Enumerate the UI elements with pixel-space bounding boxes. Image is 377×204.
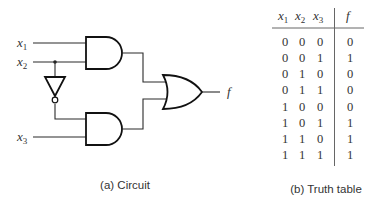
wire-not-to-and2 bbox=[55, 104, 86, 119]
svg-text:1: 1 bbox=[317, 51, 323, 65]
wire-and1-to-or bbox=[122, 53, 166, 82]
svg-text:1: 1 bbox=[317, 83, 323, 97]
circuit-diagram: x1 x2 x3 f (a) Circuit bbox=[16, 35, 233, 191]
svg-text:0: 0 bbox=[347, 100, 353, 114]
svg-text:1: 1 bbox=[347, 51, 353, 65]
svg-text:0: 0 bbox=[347, 35, 353, 49]
svg-text:0: 0 bbox=[299, 35, 305, 49]
figure: x1 x2 x3 f (a) Circuit x1 x2 x3 f bbox=[0, 0, 377, 204]
svg-text:0: 0 bbox=[299, 51, 305, 65]
svg-text:1: 1 bbox=[317, 148, 323, 162]
input-label-x1: x1 bbox=[16, 35, 27, 52]
wire-and2-to-or bbox=[122, 99, 166, 129]
input-label-x2: x2 bbox=[16, 54, 27, 71]
table-row: 0 1 0 0 bbox=[282, 67, 353, 81]
svg-text:1: 1 bbox=[347, 132, 353, 146]
svg-text:1: 1 bbox=[282, 100, 288, 114]
svg-text:1: 1 bbox=[347, 148, 353, 162]
caption-circuit: (a) Circuit bbox=[100, 179, 151, 191]
table-row: 0 0 1 1 bbox=[282, 51, 353, 65]
table-row: 0 1 1 0 bbox=[282, 83, 353, 97]
input-label-x3: x3 bbox=[16, 129, 28, 146]
svg-text:1: 1 bbox=[299, 148, 305, 162]
table-row: 1 1 0 1 bbox=[282, 132, 353, 146]
table-body: 0 0 0 0 0 0 1 1 0 1 0 0 0 1 1 0 bbox=[282, 35, 353, 162]
truth-table: x1 x2 x3 f 0 0 0 0 0 0 1 1 0 1 0 bbox=[272, 8, 364, 195]
svg-text:1: 1 bbox=[299, 83, 305, 97]
svg-text:0: 0 bbox=[317, 132, 323, 146]
svg-text:0: 0 bbox=[299, 100, 305, 114]
svg-text:1: 1 bbox=[299, 67, 305, 81]
svg-text:0: 0 bbox=[317, 67, 323, 81]
svg-text:1: 1 bbox=[347, 116, 353, 130]
not-bubble bbox=[52, 97, 58, 103]
output-label-f: f bbox=[227, 84, 233, 99]
svg-text:1: 1 bbox=[282, 116, 288, 130]
svg-text:0: 0 bbox=[282, 83, 288, 97]
svg-text:0: 0 bbox=[317, 35, 323, 49]
table-row: 1 0 1 1 bbox=[282, 116, 353, 130]
svg-text:1: 1 bbox=[299, 132, 305, 146]
svg-text:0: 0 bbox=[282, 67, 288, 81]
table-row: 0 0 0 0 bbox=[282, 35, 353, 49]
svg-text:0: 0 bbox=[299, 116, 305, 130]
svg-text:1: 1 bbox=[317, 116, 323, 130]
header-f: f bbox=[346, 8, 352, 23]
header-x3: x3 bbox=[312, 8, 324, 25]
not-gate bbox=[45, 77, 65, 96]
and-gate-2 bbox=[86, 113, 122, 145]
svg-text:0: 0 bbox=[317, 100, 323, 114]
table-row: 1 0 0 0 bbox=[282, 100, 353, 114]
svg-text:0: 0 bbox=[347, 67, 353, 81]
header-x2: x2 bbox=[294, 8, 305, 25]
svg-text:0: 0 bbox=[282, 51, 288, 65]
svg-text:1: 1 bbox=[282, 148, 288, 162]
or-gate bbox=[163, 75, 202, 109]
table-row: 1 1 1 1 bbox=[282, 148, 353, 162]
header-x1: x1 bbox=[277, 8, 288, 25]
svg-text:0: 0 bbox=[282, 35, 288, 49]
and-gate-1 bbox=[86, 37, 122, 69]
svg-text:1: 1 bbox=[282, 132, 288, 146]
svg-text:0: 0 bbox=[347, 83, 353, 97]
caption-truth-table: (b) Truth table bbox=[290, 183, 362, 195]
